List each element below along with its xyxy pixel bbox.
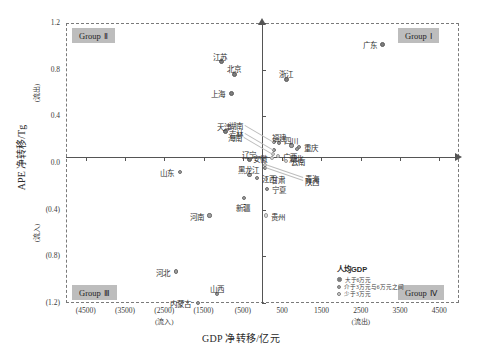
data-point-label: 陕西 [305,176,319,187]
x-tick-2 [164,157,165,161]
data-point-label: 云南 [291,156,305,167]
quadrant-numeral: Ⅲ [104,289,110,298]
legend-swatch-high [337,277,342,282]
x-axis-inflow-note: (流入) [139,316,189,326]
data-point-label: 江西 [262,173,276,184]
data-point [207,213,211,217]
data-point-label: 山东 [160,167,174,178]
y-tick-2 [262,116,266,117]
quadrant-label: Group [405,31,427,41]
quadrant-label: Group [79,288,101,298]
legend-entries: 大于6万元介于3万元与6万元之间少于3万元 [337,276,404,297]
y-axis-title: APE 净转移/Tg [13,78,28,238]
chart-canvas: (4500)(3500)(2500)(1500)(500)50015002500… [0,0,482,354]
legend-entry: 少于3万元 [337,290,404,297]
data-point-label: 浙江 [279,68,293,79]
data-point [276,154,280,158]
x-tick-0 [86,157,87,161]
x-tick-8 [400,157,401,161]
data-point-label: 黑龙江 [238,164,259,175]
legend-title: 人均GDP [337,263,404,274]
quadrant-badge-group-2: GroupⅡ [72,28,115,43]
x-tick-7 [361,157,362,161]
legend-swatch-mid [337,285,341,289]
data-point-label: 河南 [190,211,204,222]
data-point-label: 内蒙古 [170,298,191,309]
legend-entry-label: 少于3万元 [344,290,371,298]
data-point-label: 海南 [228,132,242,143]
data-point-label: 江苏 [213,51,227,62]
x-tick-6 [321,157,322,161]
data-point-label: 宁夏 [272,184,286,195]
quadrant-numeral: Ⅰ [430,32,432,41]
y-tick-label-5: (0.8) [18,251,60,260]
y-tick-label-6: (1.2) [18,298,60,307]
y-axis-inflow-note: (流入) [31,221,41,245]
quadrant-numeral: Ⅱ [104,32,108,41]
legend-swatch-low [337,292,341,296]
data-point-label: 广东 [363,39,377,50]
y-tick-6 [262,303,266,304]
data-point-label: 四川 [284,135,298,146]
data-point-label: 新疆 [236,202,250,213]
quadrant-label: Group [405,288,427,298]
quadrant-badge-group-1: GroupⅠ [398,28,439,43]
y-axis-outflow-note: (流出) [31,81,41,105]
data-point-label: 重庆 [304,142,318,153]
data-point [174,269,178,273]
data-point [284,159,288,163]
data-point-label: 山西 [210,283,224,294]
y-tick-label-0: 1.2 [18,18,60,27]
data-point [196,301,200,305]
data-point-label: 上海 [211,88,225,99]
data-point [265,187,269,191]
y-tick-4 [262,210,266,211]
x-axis-arrow-icon [455,153,462,161]
data-point [380,42,385,47]
x-tick-1 [125,157,126,161]
x-tick-3 [204,157,205,161]
quadrant-badge-group-3: GroupⅢ [72,285,117,300]
data-point-label: 北京 [227,63,241,74]
data-point-label: 贵州 [271,211,285,222]
legend: 人均GDP 大于6万元介于3万元与6万元之间少于3万元 [337,263,404,297]
x-axis-title: GDP 净转移/亿元 [0,330,482,345]
data-point-label: 河北 [156,267,170,278]
x-tick-9 [439,157,440,161]
y-tick-label-1: 0.8 [18,65,60,74]
quadrant-label: Group [79,31,101,41]
x-tick-label-9: 4500 [414,306,464,315]
y-tick-5 [262,256,266,257]
data-point [264,213,268,217]
quadrant-badge-group-4: GroupⅣ [398,285,444,300]
x-axis-outflow-note: (流出) [336,316,386,326]
data-point [229,91,234,96]
y-tick-0 [262,23,266,24]
y-tick-1 [262,70,266,71]
quadrant-numeral: Ⅳ [430,289,437,298]
data-point [242,196,246,200]
